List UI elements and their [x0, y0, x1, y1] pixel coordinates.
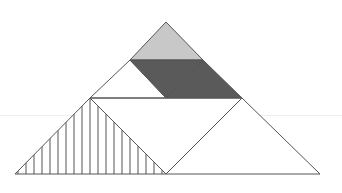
top-small-triangle — [130, 22, 203, 60]
diagram-canvas — [0, 0, 342, 193]
tangram-diagram — [0, 0, 342, 193]
